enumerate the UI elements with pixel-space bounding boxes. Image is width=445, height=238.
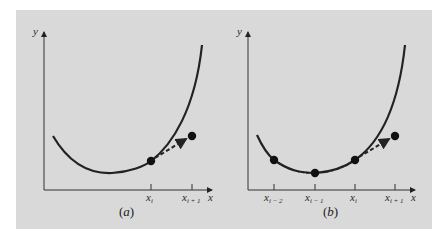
panel-caption-b: (b) — [323, 204, 338, 219]
panel-a: y x xi xi + 1 (a) — [32, 25, 213, 219]
function-curve — [53, 45, 202, 173]
tick-label-xi-1: xi − 1 — [304, 191, 324, 205]
x-axis-label: x — [410, 191, 416, 203]
point-xi-1 — [311, 169, 319, 177]
point-xi-2 — [270, 156, 278, 164]
y-axis-label: y — [32, 25, 38, 37]
tick-label-xi: xi — [349, 191, 357, 205]
tick-label-xi-2: xi − 2 — [263, 191, 283, 205]
tick-label-xi: xi — [145, 191, 153, 205]
x-axis-label: x — [207, 191, 213, 203]
point-xi1 — [188, 132, 196, 140]
point-xi — [351, 156, 359, 164]
panel-caption-a: (a) — [119, 204, 134, 219]
figure-svg: y x xi xi + 1 (a) y x — [0, 0, 445, 238]
tick-label-xi1: xi + 1 — [384, 191, 404, 205]
tick-label-xi1: xi + 1 — [181, 191, 201, 205]
y-axis-label: y — [236, 25, 242, 37]
point-xi1 — [391, 132, 399, 140]
panel-b: y x xi − 2 xi − 1 xi xi + 1 (b) — [236, 25, 416, 219]
function-curve — [257, 45, 405, 173]
point-xi — [147, 157, 155, 165]
